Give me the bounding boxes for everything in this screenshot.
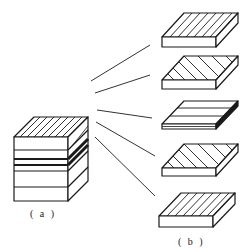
ply-5 <box>159 193 235 227</box>
ply-3 <box>162 101 238 129</box>
ply-1 <box>162 13 238 47</box>
connector-lines <box>91 45 155 196</box>
label-b: ( b ) <box>178 236 205 247</box>
laminate-stack <box>14 117 88 201</box>
label-a: ( a ) <box>30 208 56 219</box>
ply-4 <box>162 144 238 176</box>
ply-2 <box>162 56 238 89</box>
